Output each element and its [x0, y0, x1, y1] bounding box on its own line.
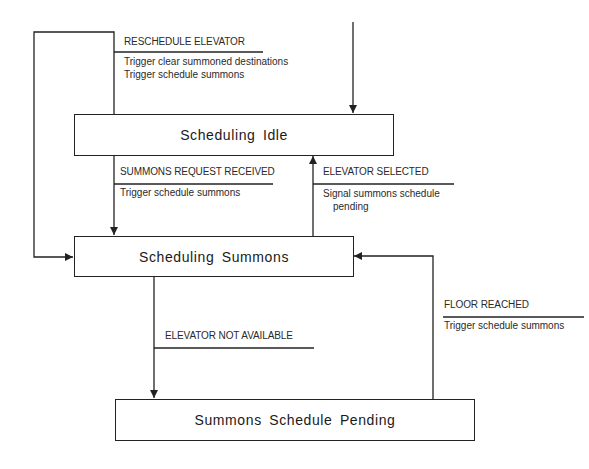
actions-reschedule-elevator: Trigger clear summoned destinations Trig…	[124, 56, 288, 81]
action-item: Trigger schedule summons	[120, 187, 240, 200]
state-label: Scheduling Summons	[139, 249, 289, 265]
state-summons-schedule-pending: Summons Schedule Pending	[115, 399, 475, 441]
actions-summons-request-received: Trigger schedule summons	[120, 187, 240, 200]
event-summons-request-received: SUMMONS REQUEST RECEIVED	[120, 166, 275, 178]
actions-floor-reached: Trigger schedule summons	[444, 320, 564, 333]
state-scheduling-summons: Scheduling Summons	[74, 236, 354, 277]
actions-elevator-selected: Signal summons schedule pending	[323, 188, 440, 213]
action-item: Signal summons schedule	[323, 188, 440, 201]
event-elevator-not-available: ELEVATOR NOT AVAILABLE	[165, 330, 293, 342]
event-floor-reached: FLOOR REACHED	[444, 299, 529, 311]
event-reschedule-elevator: RESCHEDULE ELEVATOR	[124, 36, 245, 48]
event-elevator-selected: ELEVATOR SELECTED	[323, 166, 429, 178]
floor-reached-transition-arrow	[354, 256, 433, 399]
state-label: Scheduling Idle	[180, 127, 288, 143]
action-item: Trigger clear summoned destinations	[124, 56, 288, 69]
action-item: Trigger schedule summons	[444, 320, 564, 333]
action-item: Trigger schedule summons	[124, 69, 288, 82]
action-item: pending	[323, 201, 440, 214]
state-diagram: Scheduling Idle Scheduling Summons Summo…	[0, 0, 589, 469]
state-scheduling-idle: Scheduling Idle	[74, 114, 394, 156]
state-label: Summons Schedule Pending	[195, 412, 396, 428]
